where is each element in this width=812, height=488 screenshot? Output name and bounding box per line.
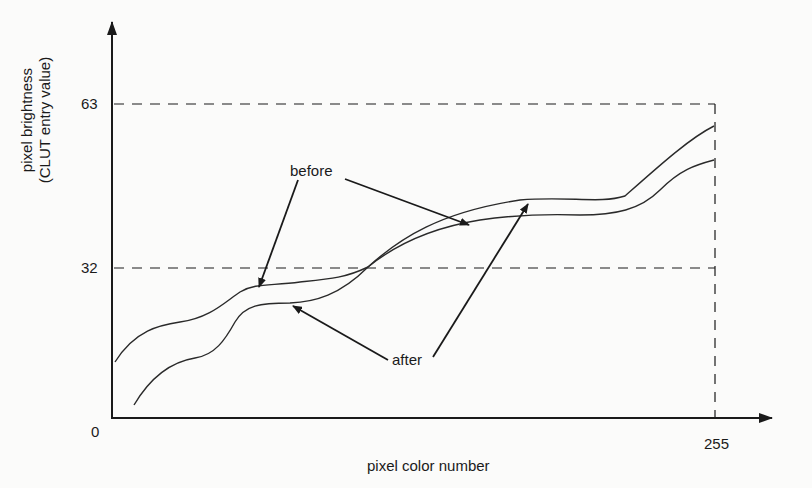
x-tick-255: 255 <box>704 436 729 451</box>
y-tick-32: 32 <box>81 260 98 275</box>
y-axis-title-line2: (CLUT entry value) <box>36 50 54 190</box>
before-label: before <box>290 163 333 178</box>
after-label: after <box>392 352 422 367</box>
y-axis-title: pixel brightness (CLUT entry value) <box>18 50 58 190</box>
after-arrow-left <box>293 306 388 360</box>
before-arrow-right <box>345 179 469 225</box>
y-tick-63: 63 <box>81 96 98 111</box>
x-axis-title: pixel color number <box>367 458 490 473</box>
before-curve <box>115 126 714 362</box>
before-arrow-left <box>259 180 298 287</box>
y-tick-0: 0 <box>91 424 99 439</box>
chart-canvas <box>0 0 812 488</box>
y-axis-title-line1: pixel brightness <box>18 50 36 190</box>
after-curve <box>134 160 714 405</box>
